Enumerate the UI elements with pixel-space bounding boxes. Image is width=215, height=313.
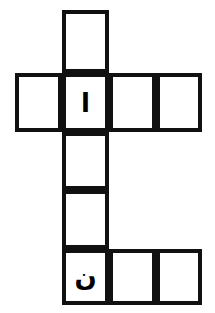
crossword-cell[interactable] xyxy=(156,249,202,305)
crossword-cell[interactable]: ن xyxy=(62,249,109,305)
crossword-cell[interactable] xyxy=(109,73,156,132)
cell-letter: ا xyxy=(81,90,90,116)
crossword-cell[interactable] xyxy=(62,190,109,249)
crossword-grid: ان xyxy=(0,0,215,313)
crossword-cell[interactable] xyxy=(156,73,202,132)
crossword-cell[interactable]: ا xyxy=(62,73,109,132)
cell-letter: ن xyxy=(74,264,96,290)
crossword-puzzle: ان xyxy=(0,0,215,313)
crossword-cell[interactable] xyxy=(62,132,109,190)
crossword-cell[interactable] xyxy=(15,73,62,132)
crossword-cell[interactable] xyxy=(109,249,156,305)
crossword-cell[interactable] xyxy=(62,10,109,73)
